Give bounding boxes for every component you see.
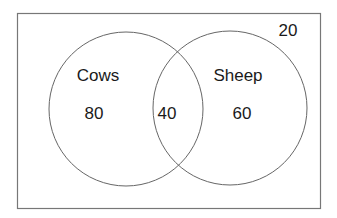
cows-only-value: 80 [85,104,104,124]
intersection-value: 40 [158,104,177,124]
cows-label: Cows [77,66,120,86]
cows-circle [49,32,203,186]
outside-value: 20 [279,21,298,41]
sheep-label: Sheep [213,66,262,86]
sheep-only-value: 60 [233,104,252,124]
